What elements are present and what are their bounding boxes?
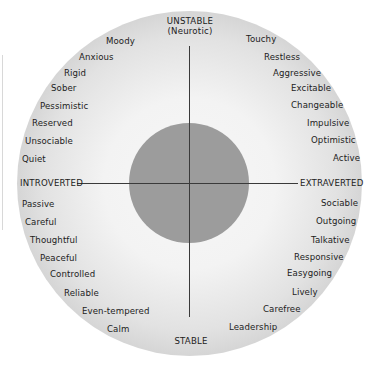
trait-label: Carefree: [263, 305, 301, 314]
trait-label: Impulsive: [307, 119, 349, 128]
trait-label: Even-tempered: [82, 307, 150, 316]
axis-label-introverted: INTROVERTED: [20, 178, 83, 188]
trait-label: Calm: [107, 325, 129, 334]
trait-label: Leadership: [229, 323, 277, 332]
trait-label: Moody: [106, 37, 135, 46]
trait-label: Talkative: [311, 236, 350, 245]
trait-label: Pessimistic: [40, 102, 88, 111]
trait-label: Passive: [22, 200, 54, 209]
axis-label-unstable: UNSTABLE (Neurotic): [160, 16, 220, 37]
trait-label: Easygoing: [287, 269, 332, 278]
axis-label-neurotic-text: (Neurotic): [160, 26, 220, 36]
trait-label: Outgoing: [316, 217, 356, 226]
trait-label: Restless: [264, 53, 300, 62]
axis-label-extraverted: EXTRAVERTED: [300, 178, 364, 188]
trait-label: Touchy: [246, 35, 276, 44]
trait-label: Lively: [292, 288, 318, 297]
trait-label: Aggressive: [273, 69, 321, 78]
trait-label: Controlled: [50, 270, 95, 279]
trait-label: Responsive: [294, 253, 344, 262]
trait-label: Careful: [25, 218, 56, 227]
trait-label: Peaceful: [40, 254, 77, 263]
trait-label: Sociable: [321, 199, 358, 208]
stability-axis: [189, 46, 190, 317]
trait-label: Anxious: [79, 53, 114, 62]
extraversion-axis: [77, 183, 298, 184]
axis-label-unstable-text: UNSTABLE: [160, 16, 220, 26]
page-edge-line: [2, 55, 3, 230]
trait-label: Thoughtful: [30, 236, 78, 245]
trait-label: Optimistic: [311, 136, 356, 145]
axis-label-stable: STABLE: [171, 336, 211, 346]
trait-label: Excitable: [291, 84, 331, 93]
trait-label: Changeable: [291, 101, 343, 110]
trait-label: Sober: [51, 84, 77, 93]
trait-label: Quiet: [22, 155, 46, 164]
trait-label: Reserved: [32, 119, 73, 128]
trait-label: Active: [333, 154, 360, 163]
trait-label: Unsociable: [25, 137, 73, 146]
trait-label: Reliable: [64, 289, 99, 298]
trait-label: Rigid: [64, 69, 86, 78]
